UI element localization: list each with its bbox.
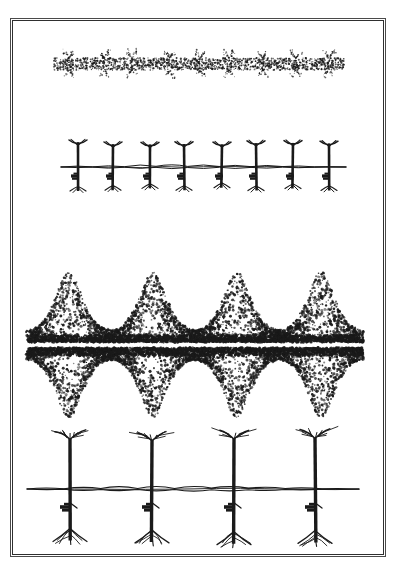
panel-4-mature-plant-row <box>27 427 359 548</box>
panel-2-young-plant-row <box>61 139 346 192</box>
figure-border-frame <box>10 18 386 557</box>
figure-canvas <box>0 0 396 571</box>
panel-1-seedling-stipple-row <box>53 48 345 79</box>
panel-3-dense-canopy-stipple-row <box>25 271 365 418</box>
plant-growth-illustration <box>11 19 385 556</box>
